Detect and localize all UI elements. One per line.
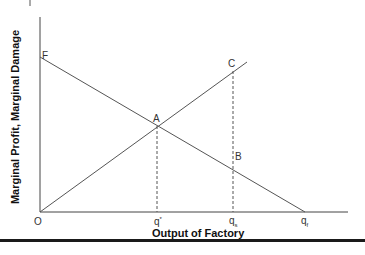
diagram-canvas	[0, 0, 365, 255]
x-axis-title: Output of Factory	[152, 227, 244, 239]
tick-label-q-star: q*	[154, 216, 162, 227]
point-label-a: A	[153, 114, 160, 124]
y-axis-title: Marginal Profit, Marginal Damage	[9, 27, 21, 207]
point-label-c: C	[228, 59, 235, 69]
tick-label-q-f: qf	[301, 216, 308, 228]
bottom-divider-bar	[0, 239, 365, 242]
point-label-b: B	[235, 152, 242, 162]
marginal-profit-line	[40, 57, 305, 212]
q-star-sup: *	[160, 216, 162, 222]
origin-label: O	[34, 217, 42, 227]
q-f-sub: f	[307, 222, 309, 228]
marginal-damage-line	[40, 62, 247, 212]
point-label-f: F	[42, 51, 48, 61]
